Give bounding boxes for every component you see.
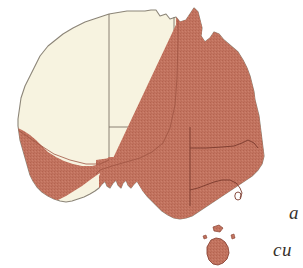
king-island-outline bbox=[203, 235, 207, 239]
caption-fragment-lower: cu bbox=[273, 240, 292, 259]
shaded-region-queensland bbox=[176, 0, 262, 216]
bass-strait-islands bbox=[203, 225, 235, 239]
distribution-map-figure: a cu bbox=[0, 0, 303, 268]
tasmania-outline bbox=[207, 238, 229, 265]
australia-map-graphic bbox=[0, 0, 303, 268]
caption-fragment-upper: a bbox=[289, 203, 299, 222]
wilsons-promontory-islet bbox=[213, 225, 223, 232]
tasmania-island bbox=[207, 238, 229, 265]
flinders-island-outline bbox=[231, 234, 235, 239]
border-act bbox=[235, 192, 241, 200]
